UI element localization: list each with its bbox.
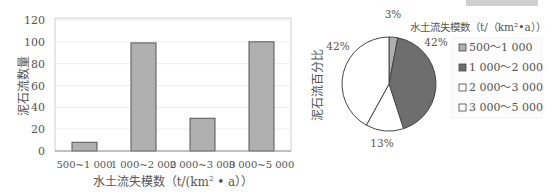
x-tick-label: 3 000~5 000 [229,159,295,170]
pie-slices [342,37,436,131]
bar [190,118,215,151]
y-tick-label: 60 [31,80,45,93]
legend-swatch [459,64,466,71]
pie-y-axis-label: 泥石流百分比 [311,49,325,121]
pie-percent-label: 42% [424,36,447,48]
bar [72,142,97,151]
y-tick-label: 100 [24,36,45,49]
legend-swatch [459,44,466,51]
legend-swatch [459,104,466,111]
legend-label: 500～1 000 [469,41,533,54]
legend-swatch [459,84,466,91]
legend-label: 3 000～5 000 [469,101,543,114]
pie-percent-label: 3% [385,8,402,20]
x-tick-label: 500~1 000 [56,159,112,170]
legend-title: 水土流失模数（t/（km²•a）） [410,21,546,33]
x-axis-categories: 500~1 0001 000~2 0002 000~3 0003 000~5 0… [56,159,294,170]
y-axis-label: 泥石流数量 [16,56,31,116]
legend-label: 1 000～2 000 [469,61,543,74]
y-tick-label: 80 [31,58,45,71]
y-tick-label: 120 [24,14,45,27]
pie-percent-label: 13% [370,137,393,149]
legend-label: 2 000～3 000 [469,81,543,94]
charts-canvas: 020406080100120 500~1 0001 000~2 0002 00… [0,0,551,195]
y-tick-label: 40 [31,101,45,114]
x-axis-label: 水土流失模数（t/(km2 • a）） [93,174,254,189]
bar [249,42,274,151]
pie-percent-label: 42% [326,40,349,52]
x-tick-label: 1 000~2 000 [111,159,177,170]
y-tick-label: 20 [31,123,45,136]
x-tick-label: 2 000~3 000 [170,159,236,170]
bar-chart: 020406080100120 500~1 0001 000~2 0002 00… [16,14,294,189]
bar [131,43,156,151]
y-tick-label: 0 [38,145,45,158]
pie-chart: 泥石流百分比 3%42%13%42% 水土流失模数（t/（km²•a）） 500… [311,8,546,149]
